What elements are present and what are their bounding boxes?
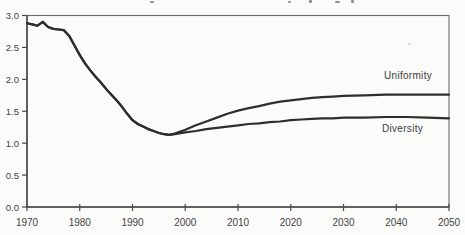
y-axis-tick-label: 2.5: [6, 42, 19, 53]
x-axis-tick-label: 1990: [121, 217, 144, 228]
y-axis-tick-label: 1.5: [6, 106, 19, 117]
y-axis-tick-label: 0.5: [6, 170, 19, 181]
scanned-figure-page: 0.00.51.01.52.02.53.01970198019902000201…: [0, 0, 465, 235]
x-axis-tick-label: 2010: [227, 217, 250, 228]
y-axis-tick-label: 2.0: [6, 74, 19, 85]
x-axis-tick-label: 2030: [332, 217, 355, 228]
x-axis-tick-label: 2050: [438, 217, 461, 228]
line-chart: 0.00.51.01.52.02.53.01970198019902000201…: [0, 0, 465, 235]
y-axis-tick-label: 3.0: [6, 10, 19, 21]
x-axis-tick-label: 1970: [16, 217, 39, 228]
y-axis-tick-label: 0.0: [6, 202, 19, 213]
x-axis-tick-label: 2020: [280, 217, 303, 228]
uniformity-series-label: Uniformity: [384, 70, 432, 81]
x-axis-tick-label: 2000: [174, 217, 197, 228]
x-axis-tick-label: 2040: [385, 217, 408, 228]
diversity-series-label: Diversity: [382, 123, 423, 134]
x-axis-tick-label: 1980: [69, 217, 92, 228]
y-axis-tick-label: 1.0: [6, 138, 19, 149]
